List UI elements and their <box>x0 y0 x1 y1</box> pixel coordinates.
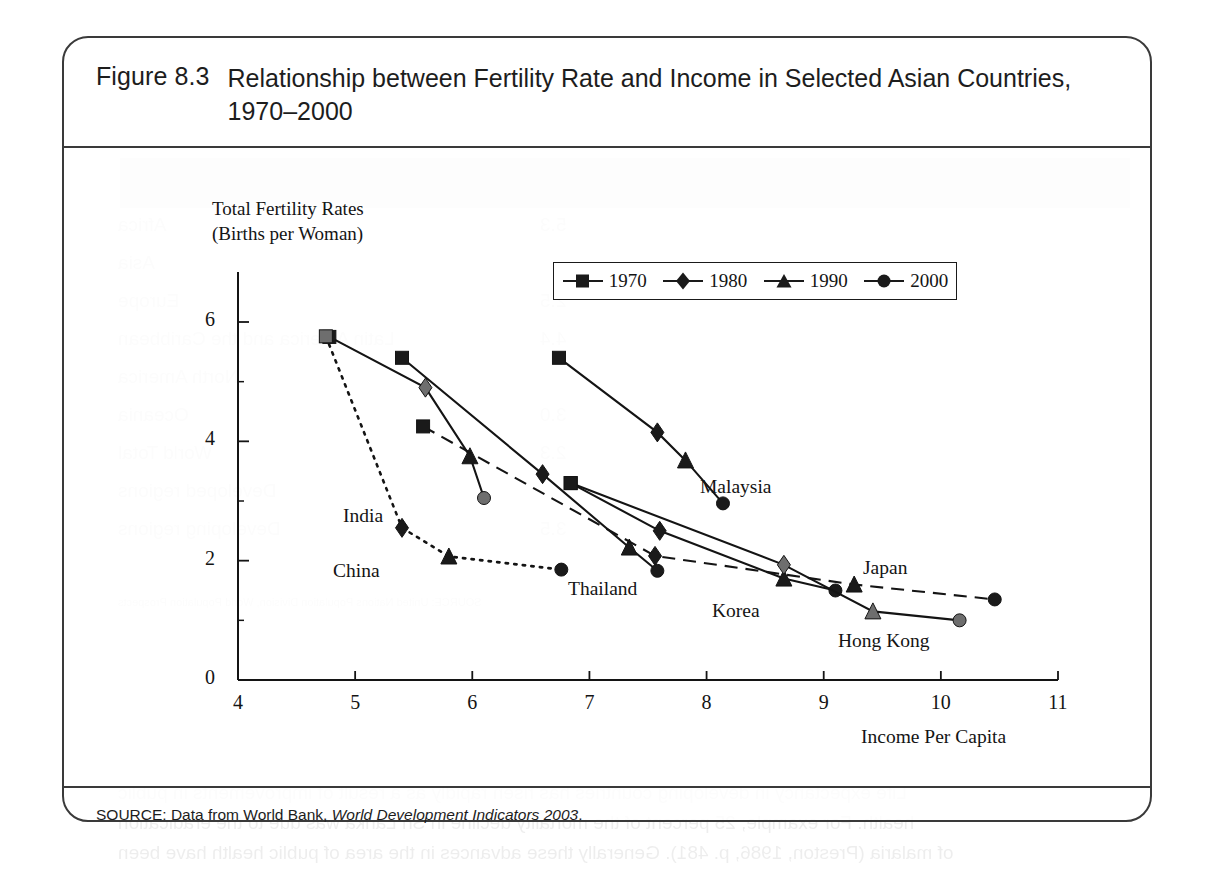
data-point-triangle <box>865 603 881 619</box>
series-line <box>402 358 657 571</box>
figure-source: SOURCE: Data from World Bank, World Deve… <box>96 806 582 824</box>
data-point-circle <box>953 614 966 627</box>
x-tick-label: 4 <box>222 691 254 714</box>
source-prefix: SOURCE: Data from World Bank, <box>96 806 332 823</box>
data-point-triangle <box>846 576 862 592</box>
data-point-diamond <box>653 521 666 540</box>
data-point-diamond <box>777 555 790 574</box>
y-tick-label: 2 <box>194 547 226 570</box>
data-point-square <box>417 420 430 433</box>
data-point-diamond <box>651 423 664 442</box>
series-line <box>326 336 561 569</box>
chart-canvas <box>0 0 1205 879</box>
data-point-circle <box>478 492 491 505</box>
data-point-diamond <box>649 546 662 565</box>
source-suffix: . <box>578 806 582 823</box>
series-label-china: China <box>333 560 380 582</box>
series-label-korea: Korea <box>712 600 760 622</box>
series-line <box>423 426 995 599</box>
x-tick-label: 6 <box>456 691 488 714</box>
x-tick-label: 11 <box>1042 691 1074 714</box>
x-tick-label: 9 <box>808 691 840 714</box>
series-line <box>559 358 723 504</box>
series-japan <box>417 420 1002 606</box>
data-point-square <box>396 351 409 364</box>
series-label-hong-kong: Hong Kong <box>838 630 930 652</box>
data-point-diamond <box>396 518 409 537</box>
y-tick-label: 6 <box>194 308 226 331</box>
data-point-diamond <box>536 465 549 484</box>
data-point-square <box>319 330 332 343</box>
series-label-japan: Japan <box>863 557 907 579</box>
source-publication: World Development Indicators 2003 <box>332 806 578 823</box>
series-label-malaysia: Malaysia <box>700 476 771 498</box>
y-tick-label: 4 <box>194 427 226 450</box>
series-label-india: India <box>343 505 383 527</box>
data-point-circle <box>716 497 729 510</box>
x-tick-label: 7 <box>573 691 605 714</box>
series-china <box>319 330 567 576</box>
y-tick-label: 0 <box>194 666 226 689</box>
series-label-thailand: Thailand <box>568 578 637 600</box>
data-point-circle <box>988 593 1001 606</box>
data-point-circle <box>651 564 664 577</box>
x-tick-label: 10 <box>925 691 957 714</box>
x-tick-label: 8 <box>691 691 723 714</box>
data-point-square <box>564 477 577 490</box>
x-tick-label: 5 <box>339 691 371 714</box>
chart-area: Total Fertility Rates (Births per Woman)… <box>0 0 1205 879</box>
data-point-circle <box>555 563 568 576</box>
data-point-square <box>552 351 565 364</box>
series-thailand <box>396 351 664 577</box>
